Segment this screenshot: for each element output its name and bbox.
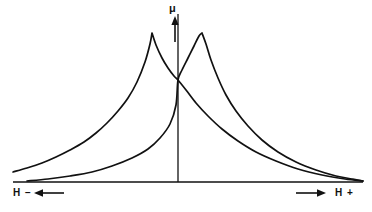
- x-axis-label-negative: H −: [13, 188, 32, 198]
- arrow-right-icon: [296, 189, 326, 197]
- plot-canvas: [0, 0, 372, 212]
- x-axis-label-positive: H +: [335, 188, 354, 198]
- y-axis-label: μ: [169, 3, 176, 14]
- curve-ascending-branch: [27, 33, 363, 181]
- permeability-figure: μ H − H +: [0, 0, 372, 212]
- arrow-left-icon: [34, 189, 64, 197]
- curve-descending-branch: [13, 33, 363, 181]
